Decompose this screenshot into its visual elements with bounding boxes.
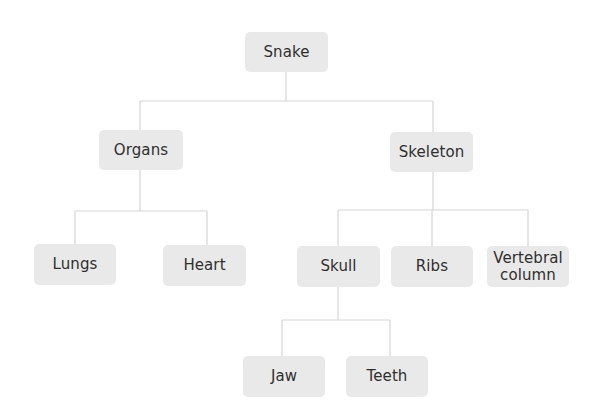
node-snake: Snake [245, 32, 328, 72]
node-lungs: Lungs [34, 244, 116, 285]
node-label: Skull [320, 258, 356, 275]
node-skull: Skull [297, 246, 380, 287]
node-teeth: Teeth [346, 356, 428, 397]
node-ribs: Ribs [391, 246, 473, 287]
node-label: Jaw [271, 368, 297, 385]
tree-diagram: Snake Organs Skeleton Lungs Heart Skull … [0, 0, 600, 417]
node-label: Lungs [53, 256, 98, 273]
node-label-line1: Vertebral [493, 250, 563, 267]
node-heart: Heart [163, 245, 246, 286]
node-organs: Organs [99, 130, 183, 170]
node-vertebral-column: Vertebral column [487, 246, 569, 287]
node-label: Heart [183, 257, 225, 274]
node-label: Organs [114, 142, 168, 159]
node-label: Ribs [416, 258, 448, 275]
node-jaw: Jaw [243, 356, 325, 397]
node-label: Snake [263, 44, 309, 61]
node-skeleton: Skeleton [390, 132, 473, 172]
node-label: Teeth [367, 368, 408, 385]
node-label: Skeleton [399, 144, 465, 161]
node-label-line2: column [500, 267, 556, 284]
